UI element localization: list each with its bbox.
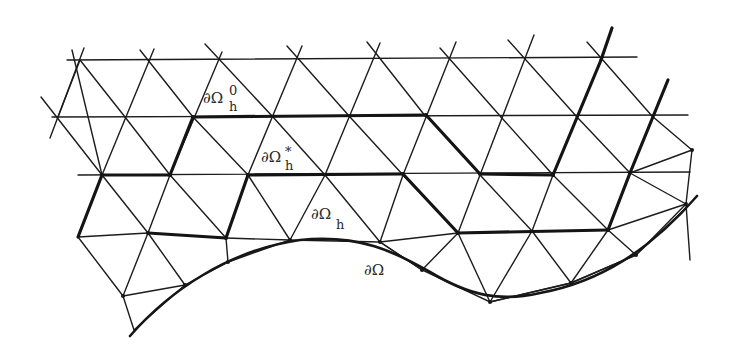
boundary-mesh-edges (78, 150, 692, 330)
label-exact-base: ∂Ω (364, 261, 384, 279)
mesh-nodes (100, 113, 694, 304)
boundary-hstar-path (78, 80, 668, 238)
label-boundary-h: ∂Ω h (311, 205, 345, 232)
label-hstar-sup: * (285, 144, 292, 159)
triangulation-diagram: ∂Ω 0 h ∂Ω * h ∂Ω h ∂Ω (0, 0, 739, 351)
label-boundary-exact: ∂Ω (364, 261, 384, 279)
label-h0-sub: h (229, 99, 238, 114)
label-h-base: ∂Ω (311, 205, 331, 223)
rising-diagonals (50, 35, 668, 302)
label-boundary-h0: ∂Ω 0 h (203, 83, 238, 114)
label-h0-sup: 0 (229, 83, 237, 98)
label-boundary-hstar: ∂Ω * h (261, 144, 294, 173)
label-hstar-base: ∂Ω (261, 148, 281, 166)
label-h0-base: ∂Ω (203, 89, 223, 107)
label-hstar-sub: h (285, 158, 294, 173)
label-h-sub: h (336, 217, 345, 232)
